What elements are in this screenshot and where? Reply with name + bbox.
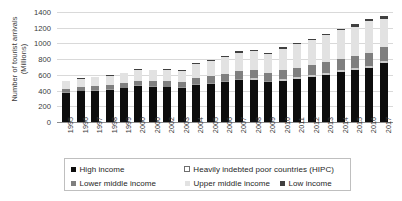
bar-column xyxy=(348,12,362,122)
bar-2000 xyxy=(149,70,157,122)
bar-segment xyxy=(380,63,388,122)
bar-segment xyxy=(279,70,287,79)
bar-2006 xyxy=(221,56,229,122)
legend-item[interactable]: Upper middle income xyxy=(185,179,270,188)
x-label-cell: 1996 xyxy=(73,124,87,154)
bar-segment xyxy=(380,19,388,47)
bar-segment xyxy=(62,81,70,89)
bar-column xyxy=(319,12,333,122)
bar-column xyxy=(131,12,145,122)
bar-2012 xyxy=(308,39,316,122)
bar-2014 xyxy=(337,29,345,122)
swatch-lower-middle-income-icon xyxy=(71,181,76,186)
bar-column xyxy=(146,12,160,122)
legend-label: High income xyxy=(80,165,125,174)
x-label-cell: 1997 xyxy=(88,124,102,154)
bar-segment xyxy=(120,73,128,83)
bar-segment xyxy=(351,27,359,57)
x-label-cell: 2000 xyxy=(131,124,145,154)
legend-item[interactable]: High income xyxy=(71,165,174,174)
bar-segment xyxy=(322,62,330,73)
chart-legend: High incomeHeavily indebted poor countri… xyxy=(64,158,351,191)
bar-segment xyxy=(337,59,345,71)
bar-segment xyxy=(106,76,114,85)
bar-segment xyxy=(235,80,243,122)
x-label-cell: 2004 xyxy=(189,124,203,154)
legend-item[interactable]: Heavily indebted poor countries (HIPC) xyxy=(184,165,334,174)
bar-segment xyxy=(134,70,142,81)
y-tick-1000: 1000 xyxy=(34,39,51,48)
legend-label: Heavily indebted poor countries (HIPC) xyxy=(193,165,334,174)
bar-column xyxy=(304,12,318,122)
x-label-cell: 2017 xyxy=(377,124,391,154)
bar-segment xyxy=(163,70,171,82)
x-label-cell: 2000 xyxy=(146,124,160,154)
bar-segment xyxy=(293,44,301,67)
x-label-cell: 1999 xyxy=(117,124,131,154)
bar-segment xyxy=(221,57,229,74)
bar-column xyxy=(276,12,290,122)
bar-segment xyxy=(192,64,200,78)
bar-segment xyxy=(365,21,373,52)
bar-segment xyxy=(293,79,301,122)
legend-label: Low income xyxy=(289,179,332,188)
x-label-cell: 2002 xyxy=(160,124,174,154)
legend-row-2: Lower middle incomeUpper middle incomeLo… xyxy=(71,176,344,190)
swatch-high-income-icon xyxy=(71,167,76,172)
bar-segment xyxy=(279,81,287,122)
bar-segment xyxy=(308,40,316,65)
bar-column xyxy=(203,12,217,122)
x-label-cell: 2015 xyxy=(348,124,362,154)
x-tick-2017: 2017 xyxy=(384,117,393,133)
bar-segment xyxy=(351,56,359,68)
x-label-cell: 2014 xyxy=(333,124,347,154)
y-tick-200: 200 xyxy=(38,102,51,111)
bar-2015 xyxy=(351,24,359,122)
bar-segment xyxy=(308,65,316,75)
x-label-cell: 2003 xyxy=(175,124,189,154)
bar-segment xyxy=(235,53,243,71)
bar-2009 xyxy=(264,53,272,122)
x-label-cell: 2007 xyxy=(232,124,246,154)
bar-column xyxy=(232,12,246,122)
bar-segment xyxy=(322,75,330,122)
y-tick-1200: 1200 xyxy=(34,23,51,32)
bar-segment xyxy=(337,30,345,58)
bar-2008 xyxy=(250,50,258,122)
bar-column xyxy=(59,12,73,122)
bar-segment xyxy=(250,70,258,78)
bar-segment xyxy=(77,79,85,87)
bar-2003 xyxy=(178,70,186,122)
bar-2011 xyxy=(293,43,301,122)
bar-column xyxy=(333,12,347,122)
bar-segment xyxy=(365,53,373,66)
legend-item[interactable]: Lower middle income xyxy=(71,179,175,188)
bar-2007 xyxy=(235,51,243,122)
plot-area xyxy=(57,12,393,122)
legend-label: Upper middle income xyxy=(194,179,271,188)
bar-segment xyxy=(207,61,215,76)
bar-2013 xyxy=(322,34,330,123)
y-tick-400: 400 xyxy=(38,86,51,95)
bar-column xyxy=(377,12,391,122)
bar-segment xyxy=(91,77,99,86)
bar-1996 xyxy=(77,78,85,122)
bar-1995 xyxy=(62,81,70,122)
x-label-cell: 2009 xyxy=(261,124,275,154)
bar-2002 xyxy=(163,69,171,122)
bar-segment xyxy=(380,47,388,61)
legend-label: Lower middle income xyxy=(80,179,157,188)
x-label-cell: 2016 xyxy=(362,124,376,154)
x-axis-tick-labels: 1995199619971998199920002000200220032004… xyxy=(57,124,393,154)
y-tick-1400: 1400 xyxy=(34,8,51,17)
bar-2010 xyxy=(279,47,287,122)
bar-segment xyxy=(337,72,345,122)
bar-segment xyxy=(178,71,186,83)
legend-item[interactable]: Low income xyxy=(280,179,332,188)
bar-column xyxy=(218,12,232,122)
x-label-cell: 2010 xyxy=(276,124,290,154)
bar-segment xyxy=(365,68,373,122)
bar-column xyxy=(175,12,189,122)
bar-1997 xyxy=(91,77,99,122)
bar-series-container xyxy=(57,12,393,122)
